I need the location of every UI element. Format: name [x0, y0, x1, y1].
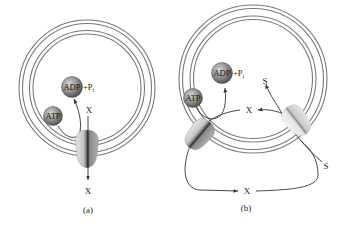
x-return-loop-arrow-b [256, 140, 318, 191]
adp-molecule-a: ADP [62, 77, 83, 98]
x-outside-label-b: X [244, 186, 251, 196]
x-inside-label-b: X [246, 105, 253, 115]
caption-a: (a) [83, 205, 93, 215]
svg-text:ADP: ADP [63, 82, 80, 92]
phosphate-label-b: +Pi [233, 68, 245, 79]
caption-b: (b) [241, 203, 252, 213]
x-inside-label-a: X [86, 105, 93, 115]
s-inside-label-b: S [262, 76, 267, 86]
svg-text:ATP: ATP [185, 93, 200, 103]
phosphate-label-a: +Pi [83, 82, 95, 93]
s-outside-label-b: S [323, 161, 328, 171]
panel-a: ADP +Pi ATP X X (a) [19, 20, 155, 215]
membrane-transport-diagram: ADP +Pi ATP X X (a) [0, 0, 341, 226]
atp-molecule-a: ATP [44, 107, 63, 126]
svg-text:ATP: ATP [45, 111, 60, 121]
x-outside-label-a: X [85, 186, 92, 196]
atp-molecule-b: ATP [184, 89, 203, 108]
atp-pump-protein-b [180, 115, 219, 155]
svg-text:ADP: ADP [213, 68, 230, 78]
panel-b: ADP +Pi ATP X S S X (b) [179, 5, 329, 213]
x-outside-loop-arrow-b [185, 146, 238, 191]
adp-molecule-b: ADP [212, 63, 233, 84]
atp-pump-protein-a [75, 130, 98, 168]
